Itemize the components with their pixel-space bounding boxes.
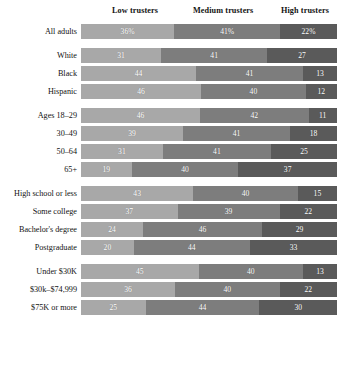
bar-row: 65+194037 [0, 162, 341, 177]
bar-row: Postgraduate204433 [0, 240, 341, 255]
bar-track: 434015 [81, 186, 337, 201]
bar-segment-value: 44 [199, 304, 207, 312]
bar-segment-value: 25 [300, 148, 308, 156]
bar-segment-value: 36% [121, 28, 135, 36]
bar-segment-value: 46 [137, 88, 145, 96]
bar-row: $75K or more254430 [0, 300, 341, 315]
bar-segment-medium: 42 [200, 108, 309, 123]
bar-segment-value: 31 [118, 148, 126, 156]
row-label: Postgraduate [0, 243, 81, 253]
bar-row: Under $30K454013 [0, 264, 341, 279]
row-label: Under $30K [0, 267, 81, 277]
bar-segment-low: 44 [81, 66, 196, 81]
row-label: $30k–$74,999 [0, 285, 81, 295]
bar-segment-low: 36% [81, 24, 174, 39]
bar-segment-high: 37 [238, 162, 337, 177]
bar-track: 364022 [81, 282, 337, 297]
bar-segment-high: 18 [290, 126, 337, 141]
bar-segment-value: 46 [137, 112, 145, 120]
bar-segment-value: 29 [296, 226, 304, 234]
bar-segment-medium: 41 [183, 126, 290, 141]
bar-segment-medium: 46 [143, 222, 262, 237]
bar-segment-high: 22 [280, 282, 337, 297]
bar-row: Some college373922 [0, 204, 341, 219]
bar-track: 314127 [81, 48, 337, 63]
bar-segment-medium: 44 [146, 300, 260, 315]
bar-segment-value: 42 [250, 112, 258, 120]
row-label: Some college [0, 207, 81, 217]
bar-segment-value: 44 [135, 70, 143, 78]
row-group-income: Under $30K454013$30k–$74,999364022$75K o… [0, 264, 341, 315]
bar-track: 36%41%22% [81, 24, 337, 39]
bar-segment-value: 39 [128, 130, 136, 138]
bar-segment-medium: 39 [178, 204, 280, 219]
bar-track: 244629 [81, 222, 337, 237]
bar-segment-low: 37 [81, 204, 178, 219]
bar-segment-value: 18 [310, 130, 318, 138]
bar-segment-low: 31 [81, 48, 161, 63]
row-label: $75K or more [0, 303, 81, 313]
chart-body: All adults36%41%22%White314127Black44411… [0, 24, 341, 315]
bar-segment-high: 33 [250, 240, 337, 255]
bar-segment-value: 37 [284, 166, 292, 174]
bar-segment-value: 41 [213, 148, 221, 156]
bar-segment-high: 22% [280, 24, 337, 39]
bar-segment-high: 11 [309, 108, 337, 123]
bar-segment-value: 15 [314, 190, 322, 198]
bar-segment-medium: 40 [175, 282, 279, 297]
bar-segment-low: 46 [81, 84, 201, 99]
bar-segment-value: 41 [210, 52, 218, 60]
row-label: 30–49 [0, 129, 81, 139]
bar-segment-value: 13 [316, 268, 324, 276]
bar-row: All adults36%41%22% [0, 24, 341, 39]
bar-row: Black444113 [0, 66, 341, 81]
bar-track: 454013 [81, 264, 337, 279]
bar-segment-medium: 41 [163, 144, 271, 159]
bar-segment-high: 29 [262, 222, 337, 237]
bar-segment-medium: 44 [134, 240, 250, 255]
bar-segment-value: 12 [318, 88, 326, 96]
bar-segment-value: 46 [199, 226, 207, 234]
bar-segment-value: 30 [294, 304, 302, 312]
legend-label-high-trusters: High trusters [281, 6, 329, 15]
bar-track: 314125 [81, 144, 337, 159]
bar-segment-high: 15 [298, 186, 337, 201]
row-group-all-adults: All adults36%41%22% [0, 24, 341, 39]
row-label: Black [0, 69, 81, 79]
bar-segment-medium: 40 [199, 264, 303, 279]
bar-segment-low: 24 [81, 222, 143, 237]
row-label: All adults [0, 27, 81, 37]
bar-segment-high: 22 [280, 204, 337, 219]
bar-segment-value: 40 [242, 190, 250, 198]
bar-track: 204433 [81, 240, 337, 255]
bar-row: 30–49394118 [0, 126, 341, 141]
bar-segment-value: 36 [124, 286, 132, 294]
legend-label-medium-trusters: Medium trusters [193, 6, 253, 15]
bar-segment-medium: 41 [196, 66, 303, 81]
bar-segment-value: 31 [117, 52, 125, 60]
legend-label-low-trusters: Low trusters [112, 6, 158, 15]
bar-row: Hispanic464012 [0, 84, 341, 99]
bar-row: 50–64314125 [0, 144, 341, 159]
bar-track: 194037 [81, 162, 337, 177]
bar-segment-value: 13 [316, 70, 324, 78]
bar-row: White314127 [0, 48, 341, 63]
bar-segment-value: 41% [220, 28, 234, 36]
bar-segment-value: 20 [104, 244, 112, 252]
bar-track: 373922 [81, 204, 337, 219]
bar-segment-low: 20 [81, 240, 134, 255]
row-label: White [0, 51, 81, 61]
bar-segment-value: 25 [110, 304, 118, 312]
bar-segment-low: 25 [81, 300, 146, 315]
bar-segment-value: 19 [103, 166, 111, 174]
chart-column-headers: Low trusters Medium trusters High truste… [85, 0, 341, 24]
bar-segment-value: 45 [136, 268, 144, 276]
bar-segment-value: 40 [250, 88, 258, 96]
bar-segment-high: 12 [306, 84, 337, 99]
bar-track: 444113 [81, 66, 337, 81]
bar-segment-medium: 41 [161, 48, 267, 63]
bar-segment-low: 31 [81, 144, 163, 159]
bar-segment-value: 33 [290, 244, 298, 252]
stacked-bar-chart: Low trusters Medium trusters High truste… [0, 0, 341, 380]
bar-segment-value: 40 [223, 286, 231, 294]
